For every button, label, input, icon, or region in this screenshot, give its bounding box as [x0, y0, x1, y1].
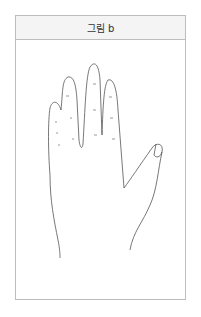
hand-drawing: [0, 0, 201, 317]
